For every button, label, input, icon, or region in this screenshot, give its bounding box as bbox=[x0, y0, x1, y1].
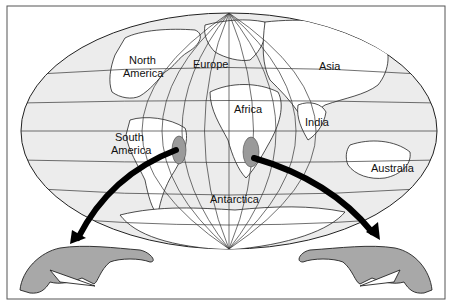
label-south-america-2: America bbox=[111, 144, 152, 156]
label-india: India bbox=[305, 116, 330, 128]
label-south-america-1: South bbox=[115, 131, 144, 143]
label-north-america-2: America bbox=[123, 67, 164, 79]
label-antarctica: Antarctica bbox=[210, 193, 260, 205]
label-north-america-1: North bbox=[129, 54, 156, 66]
label-asia: Asia bbox=[319, 60, 341, 72]
fossil-region-africa bbox=[243, 137, 259, 167]
label-australia: Australia bbox=[371, 162, 415, 174]
label-europe: Europe bbox=[193, 58, 228, 70]
label-africa: Africa bbox=[234, 103, 263, 115]
map-diagram: North America Europe Asia Africa India S… bbox=[0, 0, 453, 305]
